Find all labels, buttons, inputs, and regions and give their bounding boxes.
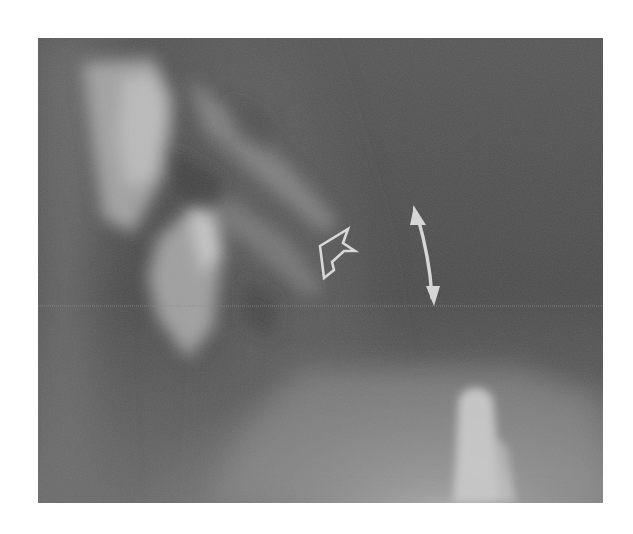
- xray-image: [38, 38, 603, 503]
- figure-page: [0, 0, 633, 534]
